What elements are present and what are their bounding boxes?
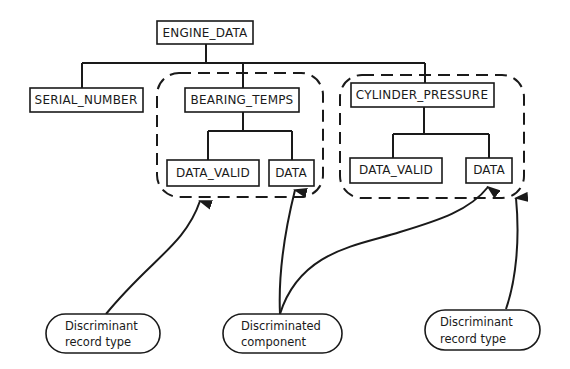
bearing-temps-connectors	[208, 112, 292, 160]
node-label: DATA_VALID	[176, 166, 250, 180]
callout-left-discriminant: Discriminant record type	[46, 314, 160, 353]
callout-right-discriminant: Discriminant record type	[425, 310, 540, 350]
arrow-left-callout-to-bearing-group	[106, 201, 200, 314]
callout-line-2: record type	[65, 335, 131, 349]
node-serial-number[interactable]: SERIAL_NUMBER	[30, 88, 143, 112]
node-label: ENGINE_DATA	[162, 26, 248, 40]
arrow-middle-callout-to-cylinder-data	[280, 187, 488, 314]
node-bearing-temps[interactable]: BEARING_TEMPS	[185, 88, 299, 112]
callout-middle-discriminated: Discriminated component	[223, 314, 342, 353]
node-label: DATA_VALID	[359, 163, 433, 177]
cylinder-pressure-connectors	[393, 107, 489, 158]
callout-line-1: Discriminant	[440, 315, 513, 329]
node-label: DATA	[473, 163, 505, 177]
node-bearing-temps-data-valid[interactable]: DATA_VALID	[167, 160, 259, 186]
callout-line-2: component	[241, 335, 307, 349]
node-engine-data[interactable]: ENGINE_DATA	[157, 21, 253, 44]
callout-line-1: Discriminated	[241, 319, 321, 333]
node-label: CYLINDER_PRESSURE	[356, 88, 488, 102]
node-label: SERIAL_NUMBER	[35, 93, 138, 107]
callout-line-1: Discriminant	[65, 319, 138, 333]
node-cylinder-pressure-data[interactable]: DATA	[466, 158, 512, 183]
node-cylinder-pressure-data-valid[interactable]: DATA_VALID	[350, 158, 442, 183]
engine-data-diagram: ENGINE_DATA SERIAL_NUMBER BEARING_TEMPS …	[0, 0, 570, 369]
callout-line-2: record type	[440, 332, 506, 346]
node-cylinder-pressure[interactable]: CYLINDER_PRESSURE	[351, 83, 494, 107]
node-label: BEARING_TEMPS	[191, 93, 294, 107]
root-connectors	[82, 44, 425, 88]
node-label: DATA	[275, 166, 307, 180]
arrow-right-callout-to-cylinder-group	[506, 198, 518, 309]
node-bearing-temps-data[interactable]: DATA	[269, 160, 314, 186]
